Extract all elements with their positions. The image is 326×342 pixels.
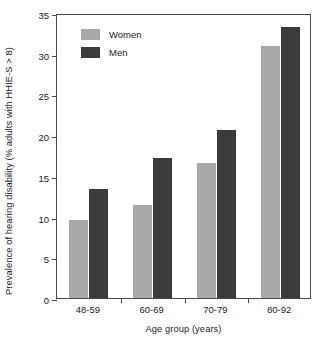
y-axis-tick-label: 25 — [38, 91, 49, 102]
y-axis-tick: 30 — [52, 56, 57, 57]
y-axis-tick: 35 — [52, 15, 57, 16]
x-axis-tick — [248, 298, 249, 303]
legend-item-women: Women — [81, 29, 142, 40]
y-axis-tick-label: 10 — [38, 214, 49, 225]
bar-men-48-59 — [89, 189, 108, 298]
y-axis-tick: 0 — [52, 300, 57, 301]
x-axis-tick — [121, 298, 122, 303]
bar-women-48-59 — [69, 220, 88, 298]
x-axis-tick-label: 70-79 — [185, 304, 245, 315]
y-axis-title: Prevalence of hearing disability (% adul… — [0, 0, 18, 342]
legend-label-men: Men — [109, 47, 127, 58]
x-axis-tick — [185, 298, 186, 303]
x-axis-tick-label: 80-92 — [249, 304, 309, 315]
y-axis-tick: 25 — [52, 96, 57, 97]
y-axis-tick-label: 30 — [38, 51, 49, 62]
bar-women-70-79 — [197, 163, 216, 298]
y-axis-tick: 10 — [52, 219, 57, 220]
legend-swatch-men-icon — [81, 47, 100, 58]
bar-men-70-79 — [217, 130, 236, 298]
x-axis-title: Age group (years) — [56, 324, 311, 334]
legend-label-women: Women — [109, 29, 142, 40]
y-axis-tick: 5 — [52, 259, 57, 260]
y-axis-tick-label: 0 — [44, 295, 49, 306]
legend: Women Men — [81, 29, 142, 58]
y-axis-tick: 20 — [52, 137, 57, 138]
bar-chart-figure: Prevalence of hearing disability (% adul… — [0, 0, 326, 342]
bar-men-60-69 — [153, 158, 172, 298]
y-axis-tick-label: 15 — [38, 173, 49, 184]
x-axis-tick-label: 48-59 — [58, 304, 118, 315]
legend-item-men: Men — [81, 47, 142, 58]
bar-women-80-92 — [261, 46, 280, 298]
bar-men-80-92 — [281, 27, 300, 298]
y-axis-tick-label: 35 — [38, 10, 49, 21]
y-axis-tick-label: 5 — [44, 254, 49, 265]
x-axis-tick-label: 60-69 — [122, 304, 182, 315]
bar-women-60-69 — [133, 205, 152, 298]
y-axis-tick-label: 20 — [38, 132, 49, 143]
plot-area: 05101520253035 Women Men — [56, 14, 311, 299]
legend-swatch-women-icon — [81, 29, 100, 40]
y-axis-tick: 15 — [52, 178, 57, 179]
